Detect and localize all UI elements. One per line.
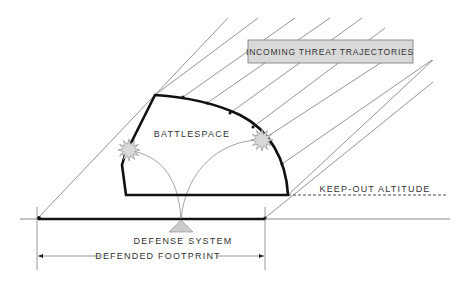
defense-system-label: DEFENSE SYSTEM [134,236,233,246]
defense-system-icon [169,220,193,232]
trajectory-line [230,18,362,113]
intercept-burst-left [118,139,140,161]
battlespace-label: BATTLESPACE [154,129,230,139]
intercept-burst-right [251,129,273,151]
footprint-left-dot [37,216,41,220]
trajectory-line [262,60,385,140]
trajectory-line [155,18,258,95]
battlespace-diagram: INCOMING THREAT TRAJECTORIES BATTLESPACE… [0,0,467,285]
keep-out-altitude-label: KEEP-OUT ALTITUDE [319,184,430,194]
interceptor-arc-right [181,140,261,219]
arrowhead-left [38,254,43,258]
trajectory-line [288,60,433,195]
defended-footprint-label: DEFENDED FOOTPRINT [95,251,221,261]
incoming-threat-label: INCOMING THREAT TRAJECTORIES [246,47,414,57]
trajectory-line [265,82,433,218]
trajectory-line [38,18,228,218]
interceptor-arc-left [127,150,181,219]
arrowhead-right [259,254,264,258]
